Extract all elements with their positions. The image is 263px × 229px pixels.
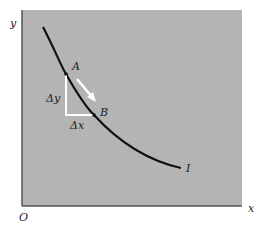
point-a-label: A — [72, 61, 80, 72]
plot-area — [22, 10, 242, 206]
point-b-label: B — [100, 107, 108, 118]
y-axis-label: y — [10, 18, 16, 29]
point-b — [92, 113, 96, 117]
delta-x-label: Δx — [70, 120, 84, 131]
x-axis-label: x — [248, 203, 254, 214]
diagram-canvas — [0, 0, 263, 229]
origin-label: O — [19, 212, 28, 223]
curve-label: I — [186, 163, 190, 174]
delta-y-label: Δy — [46, 93, 60, 104]
point-a — [64, 72, 68, 76]
